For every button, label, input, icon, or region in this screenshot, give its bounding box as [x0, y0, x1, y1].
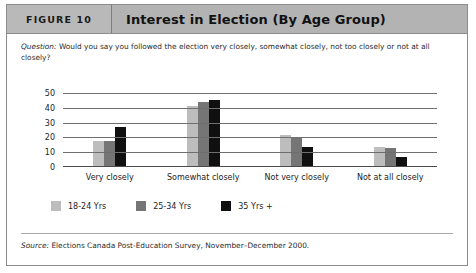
gridline	[63, 152, 437, 153]
bar-group	[157, 93, 251, 166]
y-axis-tick-label: 0	[21, 163, 55, 172]
bar	[396, 157, 407, 166]
y-axis-tick-label: 40	[21, 103, 55, 112]
bar	[280, 135, 291, 166]
source-text: Source: Elections Canada Post-Education …	[21, 241, 309, 250]
legend-label: 25-34 Yrs	[153, 202, 191, 211]
legend-swatch	[136, 201, 146, 211]
bar	[198, 102, 209, 166]
figure-header: FIGURE 10 Interest in Election (By Age G…	[7, 5, 467, 34]
axis-baseline	[63, 166, 437, 167]
legend-label: 35 Yrs +	[238, 202, 272, 211]
figure-title: Interest in Election (By Age Group)	[112, 5, 467, 33]
bar-groups	[63, 93, 437, 166]
figure-card: FIGURE 10 Interest in Election (By Age G…	[6, 4, 468, 266]
question-text: Question: Would you say you followed the…	[21, 41, 445, 63]
y-axis-tick-label: 30	[21, 118, 55, 127]
bar	[302, 147, 313, 166]
bar	[385, 148, 396, 166]
y-axis-tick-label: 10	[21, 148, 55, 157]
chart-area: 50403020100 Very closelySomewhat closely…	[21, 85, 449, 193]
bar	[93, 141, 104, 166]
bar-group	[344, 93, 438, 166]
y-axis-tick-label: 50	[21, 89, 55, 98]
source-body: Elections Canada Post-Education Survey, …	[49, 241, 309, 250]
x-axis-tick-label: Very closely	[63, 173, 157, 182]
legend-item: 35 Yrs +	[221, 201, 272, 211]
question-label: Question:	[21, 42, 57, 51]
gridline	[63, 108, 437, 109]
legend-item: 18-24 Yrs	[51, 201, 106, 211]
legend-item: 25-34 Yrs	[136, 201, 191, 211]
gridline	[63, 137, 437, 138]
x-axis-tick-label: Not at all closely	[344, 173, 438, 182]
bar-group	[250, 93, 344, 166]
y-axis: 50403020100	[21, 93, 59, 167]
gridline	[63, 93, 437, 94]
figure-number-label: FIGURE 10	[7, 5, 112, 33]
legend-swatch	[51, 201, 61, 211]
plot-area	[63, 93, 437, 167]
legend-swatch	[221, 201, 231, 211]
y-axis-tick-label: 20	[21, 133, 55, 142]
source-label: Source:	[21, 241, 49, 250]
legend-label: 18-24 Yrs	[68, 202, 106, 211]
source-divider	[21, 233, 453, 234]
bar	[115, 127, 126, 166]
bar	[187, 106, 198, 166]
x-axis-labels: Very closelySomewhat closelyNot very clo…	[63, 173, 437, 182]
chart-legend: 18-24 Yrs25-34 Yrs35 Yrs +	[51, 201, 303, 211]
question-body: Would you say you followed the election …	[21, 42, 430, 62]
bar	[209, 100, 220, 166]
bar-group	[63, 93, 157, 166]
gridline	[63, 123, 437, 124]
bar	[104, 141, 115, 166]
x-axis-tick-label: Somewhat closely	[157, 173, 251, 182]
bar	[374, 147, 385, 166]
x-axis-tick-label: Not very closely	[250, 173, 344, 182]
